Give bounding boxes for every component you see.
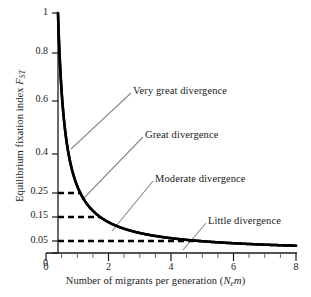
annotation-little-divergence: Little divergence (208, 215, 281, 226)
x-tick-label-4: 4 (159, 261, 183, 272)
y-axis-title-symbol-f: F (14, 78, 25, 85)
y-tick-marks (52, 13, 58, 253)
y-axis-title-wrapper: Equilibrium fixation index FST (14, 11, 28, 261)
leader-line-little (183, 223, 206, 250)
x-major-tick-marks (46, 253, 296, 261)
annotation-very-great-divergence: Very great divergence (133, 85, 227, 96)
x-tick-label-2: 2 (97, 261, 121, 272)
leader-line-great (82, 137, 143, 200)
x-axis-title-symbol-m: m (234, 275, 242, 286)
annotation-moderate-divergence: Moderate divergence (155, 173, 246, 184)
x-axis-title-symbol-n: N (223, 275, 230, 286)
x-tick-label-8: 8 (284, 261, 308, 272)
x-axis-title-text: Number of migrants per generation ( (66, 275, 224, 286)
x-tick-label-6: 6 (222, 261, 246, 272)
x-tick-label-0: 0 (34, 261, 58, 272)
annotation-leader-lines (71, 93, 206, 250)
y-axis-title-symbol-sub: ST (18, 70, 27, 78)
y-axis-title: Equilibrium fixation index FST (14, 11, 27, 261)
x-axis-title: Number of migrants per generation (Nem) (0, 275, 311, 288)
leader-line-moderate (112, 181, 153, 231)
leader-line-very-great (71, 93, 131, 149)
x-axis-title-close: ) (242, 275, 246, 286)
annotation-great-divergence: Great divergence (145, 129, 218, 140)
y-axis-title-text: Equilibrium fixation index (14, 85, 25, 202)
chart-figure: 1 0.8 0.6 0.4 0.25 0.15 0.05 0 0 2 4 6 8… (0, 0, 311, 297)
